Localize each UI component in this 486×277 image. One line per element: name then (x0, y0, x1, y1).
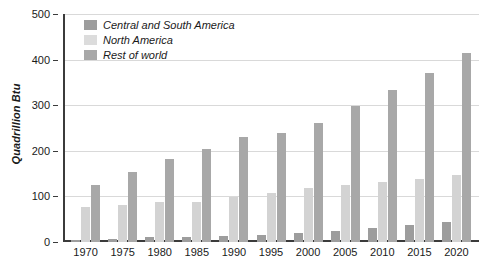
legend-item: Central and South America (84, 18, 235, 31)
bar (71, 240, 80, 242)
bar (405, 225, 414, 242)
legend-label: Rest of world (103, 49, 167, 61)
legend-swatch-icon (84, 35, 97, 45)
bar-group-2015 (401, 14, 438, 242)
bar (378, 182, 387, 242)
x-tick-label: 2020 (438, 246, 475, 258)
bar (202, 149, 211, 242)
x-tick-label: 1985 (178, 246, 215, 258)
bar (108, 239, 117, 242)
bar (368, 228, 377, 242)
x-tick-label: 2005 (327, 246, 364, 258)
bar (425, 73, 434, 242)
bar (81, 207, 90, 242)
x-tick-label: 1975 (104, 246, 141, 258)
bar-group-2010 (364, 14, 401, 242)
y-tick-label: 200 (32, 145, 50, 157)
bar (118, 205, 127, 242)
bar (145, 237, 154, 242)
y-tick-label: 500 (32, 8, 50, 20)
y-tick-label: 0 (44, 236, 50, 248)
legend-swatch-icon (84, 50, 97, 60)
y-tick-label: 300 (32, 99, 50, 111)
bar (331, 231, 340, 242)
bar (229, 197, 238, 242)
y-tick-mark (53, 196, 58, 197)
bar (257, 235, 266, 242)
x-tick-label: 2010 (364, 246, 401, 258)
y-tick-mark (53, 105, 58, 106)
bar (91, 185, 100, 242)
bar-chart: Quadrillion Btu 0100200300400500 1970197… (0, 0, 486, 277)
bar (277, 133, 286, 242)
bar (182, 237, 191, 242)
bar (239, 137, 248, 242)
bar (267, 193, 276, 242)
bar (294, 233, 303, 242)
x-tick-label: 1970 (67, 246, 104, 258)
legend-label: Central and South America (103, 19, 235, 31)
legend-item: Rest of world (84, 48, 235, 61)
x-tick-label: 1990 (215, 246, 252, 258)
bar (128, 172, 137, 242)
bar (415, 179, 424, 242)
x-tick-label: 1980 (141, 246, 178, 258)
bar-group-1995 (252, 14, 289, 242)
y-tick-mark (53, 14, 58, 15)
legend: Central and South AmericaNorth AmericaRe… (84, 18, 235, 61)
y-tick-label: 100 (32, 190, 50, 202)
legend-swatch-icon (84, 20, 97, 30)
bar (304, 188, 313, 242)
bar (442, 222, 451, 242)
bar (219, 236, 228, 242)
legend-item: North America (84, 33, 235, 46)
bar (452, 175, 461, 242)
bar (155, 202, 164, 242)
bar (165, 159, 174, 242)
y-axis-ticks: 0100200300400500 (0, 14, 58, 242)
bar-group-2005 (327, 14, 364, 242)
bar (192, 202, 201, 242)
bar (341, 185, 350, 242)
bar (462, 53, 471, 242)
x-tick-label: 2015 (401, 246, 438, 258)
bar-group-2020 (438, 14, 475, 242)
y-tick-mark (53, 242, 58, 243)
x-tick-label: 1995 (252, 246, 289, 258)
legend-label: North America (103, 34, 173, 46)
bar-group-2000 (290, 14, 327, 242)
y-tick-mark (53, 151, 58, 152)
bar (388, 90, 397, 242)
bar (351, 106, 360, 242)
y-tick-label: 400 (32, 54, 50, 66)
x-tick-label: 2000 (290, 246, 327, 258)
x-axis-ticks: 1970197519801985199019952000200520102015… (63, 246, 479, 258)
bar (314, 123, 323, 242)
y-tick-mark (53, 60, 58, 61)
